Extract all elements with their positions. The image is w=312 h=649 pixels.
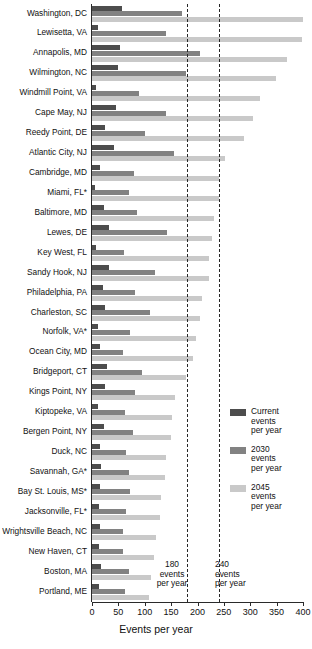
x-tick (198, 602, 199, 606)
reference-line-240 (219, 4, 220, 602)
bar-current (92, 6, 122, 11)
chart-row: Wilmington, NC (92, 65, 303, 85)
category-label: Lewisetta, VA (37, 28, 87, 37)
bar-2030 (92, 230, 167, 235)
category-label: Baltimore, MD (34, 208, 87, 217)
bar-current (92, 544, 99, 549)
chart-row: Wrightsville Beach, NC (92, 524, 303, 544)
x-tick-label: 350 (269, 607, 284, 617)
x-tick-label: 0 (89, 607, 94, 617)
category-label: Charleston, SC (31, 308, 87, 317)
chart-row: Lewes, DE (92, 225, 303, 245)
y-axis-line (91, 4, 92, 602)
bar-current (92, 444, 100, 449)
bar-2045 (92, 216, 214, 221)
chart-row: Boston, MA (92, 564, 303, 584)
bar-2030 (92, 310, 150, 315)
category-label: Key West, FL (37, 248, 87, 257)
bar-2045 (92, 116, 253, 121)
chart-row: Key West, FL (92, 245, 303, 265)
category-label: Kiptopeke, VA (35, 407, 87, 416)
bar-2030 (92, 350, 123, 355)
x-tick-label: 50 (113, 607, 123, 617)
bar-2045 (92, 17, 303, 22)
legend-item[interactable]: Currenteventsper year (230, 407, 310, 436)
bar-2030 (92, 210, 137, 215)
bar-2045 (92, 256, 209, 261)
bar-2030 (92, 470, 129, 475)
bar-current (92, 65, 118, 70)
bar-current (92, 384, 105, 389)
bar-current (92, 364, 107, 369)
x-tick (171, 602, 172, 606)
legend-item[interactable]: 2030eventsper year (230, 445, 310, 474)
bar-2045 (92, 555, 154, 560)
legend-label: 2030eventsper year (251, 445, 282, 474)
bar-2045 (92, 415, 172, 420)
chart-row: Ocean City, MD (92, 344, 303, 364)
bar-current (92, 424, 104, 429)
bar-2030 (92, 91, 139, 96)
chart-row: Annapolis, MD (92, 45, 303, 65)
category-label: Philadelphia, PA (27, 288, 87, 297)
legend-swatch-2045 (230, 485, 246, 492)
bar-current (92, 484, 100, 489)
chart-row: Miami, FL* (92, 185, 303, 205)
x-tick-label: 100 (137, 607, 152, 617)
chart-row: Sandy Hook, NJ (92, 265, 303, 285)
bar-2030 (92, 330, 130, 335)
bar-2045 (92, 236, 212, 241)
bar-2030 (92, 549, 123, 554)
x-tick (303, 602, 304, 606)
bar-current (92, 145, 114, 150)
chart-row: Atlantic City, NJ (92, 145, 303, 165)
legend-item[interactable]: 2045eventsper year (230, 483, 310, 512)
x-tick-label: 400 (295, 607, 310, 617)
chart-container: Washington, DCLewisetta, VAAnnapolis, MD… (0, 0, 312, 649)
chart-row: Philadelphia, PA (92, 285, 303, 305)
category-label: Miami, FL* (47, 188, 87, 197)
bar-2030 (92, 390, 135, 395)
bar-2030 (92, 450, 126, 455)
x-axis-title: Events per year (0, 623, 312, 635)
bar-current (92, 185, 95, 190)
bar-2045 (92, 57, 287, 62)
bar-2045 (92, 96, 260, 101)
bar-current (92, 324, 98, 329)
legend-label: Currenteventsper year (251, 407, 282, 436)
bar-2030 (92, 270, 155, 275)
annotation-240-events: 240eventsper year (215, 560, 261, 589)
bar-2045 (92, 336, 196, 341)
bar-2045 (92, 276, 209, 281)
bar-2030 (92, 151, 174, 156)
chart-row: Kings Point, NY (92, 384, 303, 404)
category-label: Atlantic City, NJ (29, 148, 87, 157)
bar-2030 (92, 190, 129, 195)
bar-2030 (92, 131, 145, 136)
bar-current (92, 105, 116, 110)
category-label: Windmill Point, VA (19, 88, 87, 97)
bar-current (92, 245, 96, 250)
bar-2030 (92, 589, 125, 594)
chart-row: Baltimore, MD (92, 205, 303, 225)
reference-line-180 (187, 4, 188, 602)
bar-2030 (92, 370, 142, 375)
annotation-180-events: 180eventsper year (150, 560, 194, 589)
x-tick (92, 602, 93, 606)
bar-2030 (92, 529, 123, 534)
bar-current (92, 45, 120, 50)
bar-current (92, 25, 98, 30)
bar-current (92, 205, 104, 210)
chart-row: Charleston, SC (92, 305, 303, 325)
x-tick-label: 250 (216, 607, 231, 617)
category-label: Ocean City, MD (29, 347, 87, 356)
bar-current (92, 225, 109, 230)
bar-current (92, 85, 96, 90)
chart-row: Cape May, NJ (92, 105, 303, 125)
bar-current (92, 125, 105, 130)
category-label: Wrightsville Beach, NC (2, 527, 87, 536)
bar-current (92, 464, 101, 469)
category-label: Bergen Point, NY (23, 427, 87, 436)
bar-2030 (92, 569, 129, 574)
category-label: Bridgeport, CT (33, 367, 87, 376)
